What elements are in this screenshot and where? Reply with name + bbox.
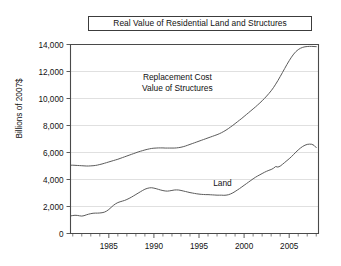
x-tick-label: 2000	[235, 242, 254, 251]
y-tick-label: 12,000	[38, 68, 63, 77]
y-tick-label: 0	[59, 230, 64, 239]
series-line-structures	[71, 46, 317, 166]
land-annotation: Land	[213, 178, 232, 188]
x-tick-label: 1995	[190, 242, 209, 251]
y-tick-label: 14,000	[38, 41, 63, 50]
y-tick-label: 6,000	[43, 149, 64, 158]
y-tick-label: 2,000	[43, 203, 64, 212]
structures-annotation: Replacement Cost	[143, 72, 213, 82]
y-tick-label: 4,000	[43, 176, 64, 185]
chart-plot-area: 02,0004,0006,0008,00010,00012,00014,0001…	[0, 0, 341, 266]
series-line-land	[71, 144, 317, 216]
y-tick-label: 10,000	[38, 95, 63, 104]
x-tick-label: 2005	[280, 242, 299, 251]
structures-annotation: Value of Structures	[142, 83, 213, 93]
x-tick-label: 1990	[145, 242, 164, 251]
y-tick-label: 8,000	[43, 122, 64, 131]
chart-figure: Real Value of Residential Land and Struc…	[0, 0, 341, 266]
x-tick-label: 1985	[100, 242, 119, 251]
